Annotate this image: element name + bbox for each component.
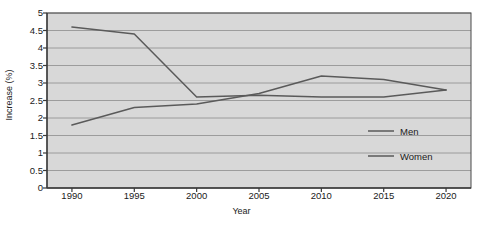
- x-axis-tick-label: 1990: [61, 191, 82, 201]
- x-axis-tick-label: 2010: [311, 191, 332, 201]
- line-chart: Increase (%) 00.511.522.533.544.55 MenWo…: [0, 0, 483, 231]
- x-axis-tick-label: 2000: [186, 191, 207, 201]
- x-axis-tick-labels: 1990199520002005201020152020: [0, 0, 483, 231]
- x-axis-tick-label: 1995: [124, 191, 145, 201]
- x-axis-title: Year: [0, 206, 483, 216]
- x-axis-tick-label: 2005: [248, 191, 269, 201]
- x-axis-tick-label: 2015: [373, 191, 394, 201]
- x-axis-title-text: Year: [232, 206, 250, 216]
- x-axis-tick-label: 2020: [435, 191, 456, 201]
